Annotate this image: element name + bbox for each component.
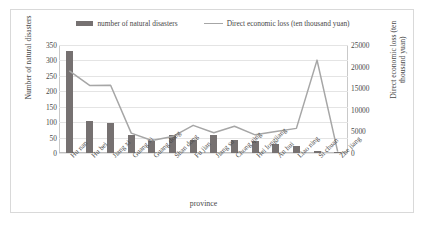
y-axis-left-tick-label: 100 xyxy=(46,118,57,127)
y-axis-left-tick-label: 200 xyxy=(46,87,57,96)
chart-container: number of natural disasters Direct econo… xyxy=(10,9,414,213)
x-axis-labels: Hu nanHu beiJiang xiGuang xiGuang dongSh… xyxy=(59,154,348,196)
y-axis-right-tick-label: 25000 xyxy=(351,41,369,50)
x-axis-title: province xyxy=(59,199,348,208)
y-axis-left-tick-label: 50 xyxy=(50,133,57,142)
line-series xyxy=(59,45,348,153)
legend-label-bars: number of natural disasters xyxy=(97,19,177,28)
legend-item-bars: number of natural disasters xyxy=(76,19,177,28)
y-axis-left-tick-label: 300 xyxy=(46,56,57,65)
y-axis-right-tick-label: 20000 xyxy=(351,62,369,71)
legend-label-line: Direct economic loss (ten thousand yuan) xyxy=(227,19,350,28)
y-axis-right-title: Direct economic loss (ten thousand yuan) xyxy=(390,8,407,112)
y-axis-left-ticks: 050100150200250300350 xyxy=(31,45,57,153)
y-axis-left-tick-label: 150 xyxy=(46,102,57,111)
y-axis-left-tick-label: 350 xyxy=(46,41,57,50)
y-axis-right-tick-label: 15000 xyxy=(351,84,369,93)
legend-bar-swatch-icon xyxy=(76,21,93,26)
plot-area xyxy=(59,45,348,153)
chart-legend: number of natural disasters Direct econo… xyxy=(11,19,415,28)
legend-item-line: Direct economic loss (ten thousand yuan) xyxy=(204,19,350,28)
y-axis-left-tick-label: 250 xyxy=(46,71,57,80)
y-axis-right-tick-label: 5000 xyxy=(351,127,366,136)
y-axis-left-tick-label: 0 xyxy=(53,149,57,158)
line-path xyxy=(69,60,337,152)
y-axis-right-tick-label: 10000 xyxy=(351,105,369,114)
legend-line-swatch-icon xyxy=(204,23,223,24)
